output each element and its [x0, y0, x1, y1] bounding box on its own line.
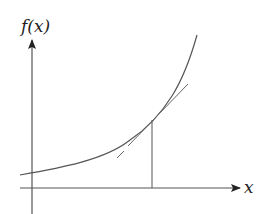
y-axis-label: f(x) — [19, 16, 50, 36]
x-axis-label: x — [244, 177, 254, 197]
curve — [20, 35, 197, 175]
tangent-diagram: f(x) x — [0, 0, 262, 214]
